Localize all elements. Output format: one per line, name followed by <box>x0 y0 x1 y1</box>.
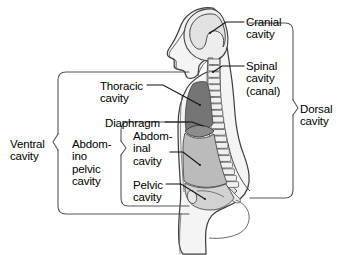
label-thoracic-cavity: Thoracic cavity <box>100 80 143 105</box>
label-diaphragm: Diaphragm <box>105 117 160 129</box>
body-cavities-diagram: Cranial cavity Spinal cavity (canal) Dor… <box>0 0 346 255</box>
label-pelvic-cavity: Pelvic cavity <box>133 179 163 204</box>
label-dorsal-cavity: Dorsal cavity <box>300 103 332 128</box>
endpoint-pelvic <box>204 198 206 200</box>
label-cranial-cavity: Cranial cavity <box>246 16 281 41</box>
diagram-canvas <box>0 0 346 255</box>
dorsal-bracket-pointer <box>293 100 298 115</box>
endpoint-spinal <box>212 71 214 73</box>
label-abdominopelvic-cavity: Abdom- ino pelvic cavity <box>72 138 111 188</box>
label-spinal-cavity: Spinal cavity (canal) <box>246 60 280 97</box>
label-ventral-cavity: Ventral cavity <box>10 138 45 163</box>
body-figure <box>167 8 250 254</box>
dorsal-cavity-bracket <box>249 23 293 198</box>
endpoint-cranial <box>209 32 211 34</box>
abdominopelvic-bracket-pointer <box>121 141 126 155</box>
ventral-bracket-pointer <box>53 134 58 150</box>
endpoint-abdominal <box>199 164 201 166</box>
label-abdominal-cavity: Abdom- inal cavity <box>133 130 172 167</box>
endpoint-thoracic <box>199 104 201 106</box>
